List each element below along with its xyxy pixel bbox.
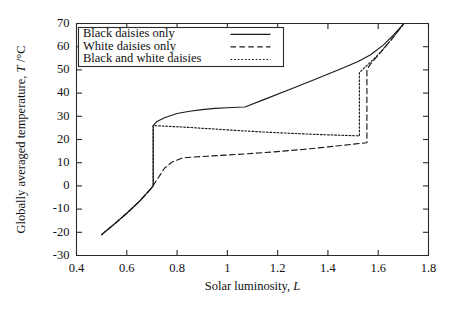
x-tick-label: 1.4 bbox=[320, 261, 336, 275]
x-tick-label: 1 bbox=[224, 261, 230, 275]
y-tick-label: 0 bbox=[63, 178, 69, 192]
chart-canvas: -30-20-100102030405060700.40.60.811.21.4… bbox=[0, 0, 459, 312]
y-tick-label: 50 bbox=[57, 62, 70, 76]
legend-label: Black and white daisies bbox=[83, 51, 202, 65]
y-tick-label: 70 bbox=[57, 16, 70, 30]
x-tick-label: 1.2 bbox=[270, 261, 286, 275]
x-tick-label: 0.4 bbox=[69, 261, 85, 275]
y-tick-label: 30 bbox=[57, 109, 70, 123]
y-tick-label: -20 bbox=[53, 225, 70, 239]
y-tick-label: 60 bbox=[57, 39, 70, 53]
x-axis-title: Solar luminosity, L bbox=[205, 279, 300, 293]
y-tick-label: 10 bbox=[57, 155, 70, 169]
x-tick-label: 0.6 bbox=[119, 261, 135, 275]
y-tick-label: 20 bbox=[57, 132, 70, 146]
y-tick-label: -30 bbox=[53, 248, 70, 262]
x-tick-label: 0.8 bbox=[169, 261, 185, 275]
y-tick-label: -10 bbox=[53, 201, 70, 215]
x-tick-label: 1.6 bbox=[370, 261, 386, 275]
x-tick-label: 1.8 bbox=[421, 261, 437, 275]
y-axis-title: Globally averaged temperature, T /°C bbox=[14, 46, 28, 234]
y-tick-label: 40 bbox=[57, 85, 70, 99]
chart-legend: Black daisies onlyWhite daisies onlyBlac… bbox=[79, 26, 284, 66]
daisyworld-temperature-chart: -30-20-100102030405060700.40.60.811.21.4… bbox=[0, 0, 459, 312]
